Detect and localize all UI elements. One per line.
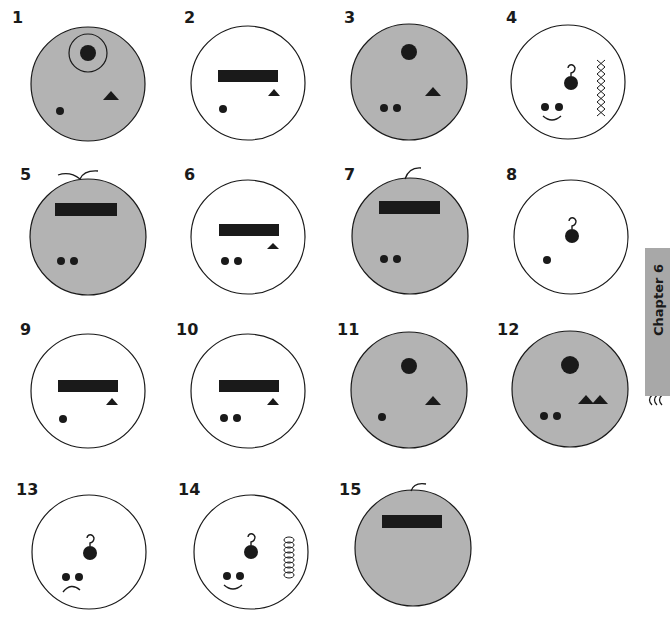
cell-15 <box>355 484 471 606</box>
dot <box>236 572 244 580</box>
dot <box>380 104 388 112</box>
nucleus <box>80 45 96 61</box>
dot <box>555 103 563 111</box>
bar <box>55 203 117 216</box>
dot <box>221 257 229 265</box>
nucleus <box>401 44 417 60</box>
flagellum <box>80 171 98 179</box>
dot <box>56 107 64 115</box>
cell-4 <box>511 25 625 139</box>
chapter-label: Chapter 6 <box>651 264 666 336</box>
dot <box>62 573 70 581</box>
dot <box>219 105 227 113</box>
bar <box>219 380 279 392</box>
cell-12 <box>512 331 628 447</box>
cell-5 <box>30 171 146 295</box>
dot <box>393 104 401 112</box>
dot <box>75 573 83 581</box>
dot <box>540 412 548 420</box>
cell-14 <box>194 495 308 609</box>
dot <box>380 255 388 263</box>
dot <box>543 256 551 264</box>
nucleus <box>401 358 417 374</box>
dot <box>234 257 242 265</box>
dot <box>393 255 401 263</box>
bar <box>219 224 279 236</box>
bar <box>58 380 118 392</box>
cell-13 <box>32 495 146 609</box>
dot <box>223 572 231 580</box>
cell-7 <box>352 168 468 294</box>
flagellum <box>405 168 421 179</box>
bar <box>382 515 442 528</box>
diagram-canvas <box>0 0 670 620</box>
flagellum <box>58 174 80 179</box>
cell-11 <box>351 332 467 448</box>
chapter-tab-label: Chapter 6 <box>646 250 670 350</box>
cell-9 <box>31 334 145 448</box>
cell-8 <box>514 180 628 294</box>
dot <box>378 413 386 421</box>
bar <box>218 70 278 82</box>
coil <box>284 537 294 578</box>
dot <box>553 412 561 420</box>
dot <box>541 103 549 111</box>
dot <box>59 415 67 423</box>
cell-10 <box>191 334 305 448</box>
cell-3 <box>351 24 467 140</box>
cell-2 <box>191 26 305 140</box>
dot <box>57 257 65 265</box>
dot <box>220 414 228 422</box>
dot <box>233 414 241 422</box>
nucleus <box>561 356 579 374</box>
dot <box>70 257 78 265</box>
bar <box>379 201 440 214</box>
cell-6 <box>191 180 305 294</box>
cell-1 <box>31 27 145 141</box>
